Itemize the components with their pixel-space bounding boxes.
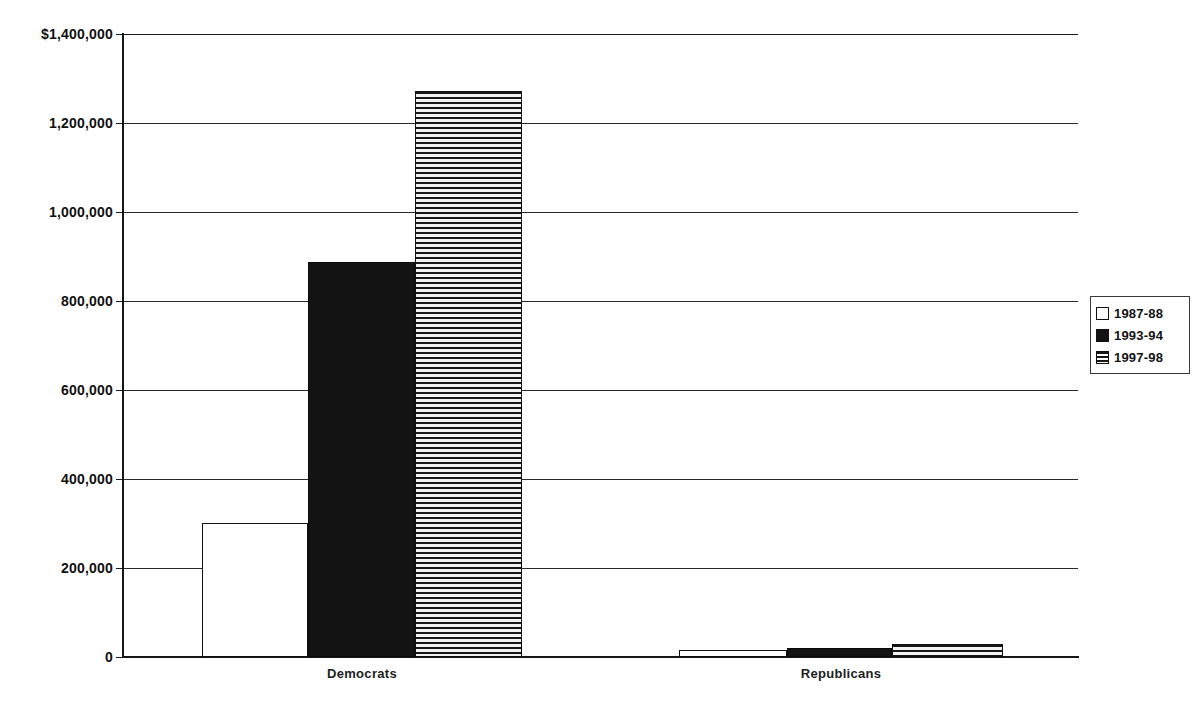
y-axis-line — [122, 33, 124, 658]
striped-square-icon — [1096, 351, 1109, 364]
legend-item-1997-98: 1997-98 — [1096, 346, 1185, 368]
gridline-1400000 — [123, 34, 1078, 35]
bar-chart: $1,400,000 1,200,000 1,000,000 800,000 6… — [0, 0, 1200, 712]
y-axis-label-1000000: 1,000,000 — [49, 205, 113, 219]
filled-square-icon — [1096, 329, 1109, 342]
gridline-600000 — [123, 390, 1078, 391]
x-axis-label-republicans: Republicans — [679, 666, 1003, 681]
y-axis-label-1200000: 1,200,000 — [49, 116, 113, 130]
legend: 1987-88 1993-94 1997-98 — [1090, 296, 1190, 374]
gridline-1000000 — [123, 212, 1078, 213]
bar-democrats-1993-94 — [308, 262, 415, 657]
bar-republicans-1993-94 — [787, 648, 892, 657]
legend-label: 1997-98 — [1114, 350, 1163, 365]
gridline-1200000 — [123, 123, 1078, 124]
y-axis-label-1400000: $1,400,000 — [41, 27, 113, 41]
gridline-400000 — [123, 479, 1078, 480]
y-axis-label-800000: 800,000 — [61, 294, 113, 308]
y-axis-label-400000: 400,000 — [61, 472, 113, 486]
y-axis-label-600000: 600,000 — [61, 383, 113, 397]
legend-label: 1987-88 — [1114, 306, 1163, 321]
bar-democrats-1987-88 — [202, 523, 308, 657]
y-axis-label-0: 0 — [105, 650, 113, 664]
y-axis-label-200000: 200,000 — [61, 561, 113, 575]
legend-item-1993-94: 1993-94 — [1096, 324, 1185, 346]
legend-item-1987-88: 1987-88 — [1096, 302, 1185, 324]
bar-republicans-1987-88 — [679, 650, 787, 657]
bar-democrats-1997-98 — [415, 91, 522, 657]
x-axis-label-democrats: Democrats — [202, 666, 522, 681]
legend-label: 1993-94 — [1114, 328, 1163, 343]
hollow-square-icon — [1096, 307, 1109, 320]
bar-republicans-1997-98 — [892, 644, 1003, 657]
gridline-800000 — [123, 301, 1078, 302]
